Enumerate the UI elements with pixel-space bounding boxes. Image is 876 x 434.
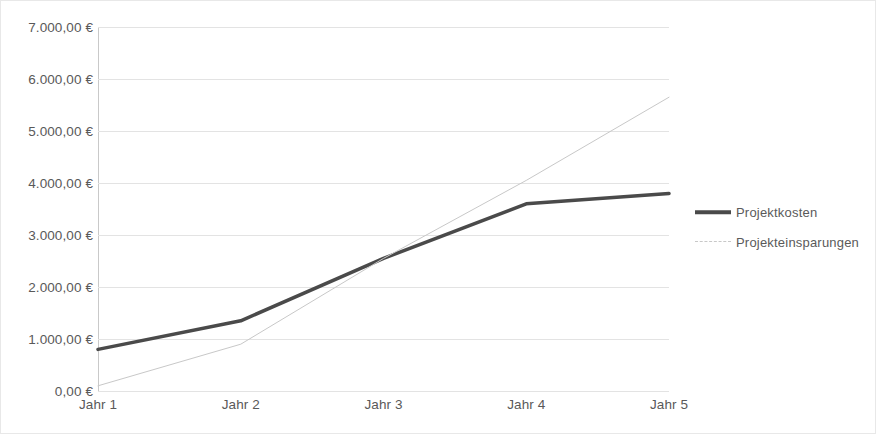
legend-item-projektkosten: Projektkosten	[695, 197, 871, 227]
y-axis-tick-label: 2.000,00 €	[5, 280, 93, 295]
chart-legend: Projektkosten Projekteinsparungen	[695, 197, 871, 257]
y-axis-labels: 0,00 €1.000,00 €2.000,00 €3.000,00 €4.00…	[1, 27, 93, 391]
series-line	[98, 193, 669, 349]
thick-line-marker-icon	[695, 206, 731, 218]
y-axis-tick-label: 5.000,00 €	[5, 124, 93, 139]
x-axis-tick-label: Jahr 2	[222, 397, 260, 412]
y-axis-tick-label: 3.000,00 €	[5, 228, 93, 243]
y-axis-tick-label: 1.000,00 €	[5, 332, 93, 347]
line-chart: 0,00 €1.000,00 €2.000,00 €3.000,00 €4.00…	[0, 0, 876, 434]
x-axis-tick-label: Jahr 1	[79, 397, 117, 412]
x-axis-tick-label: Jahr 3	[364, 397, 402, 412]
x-axis-labels: Jahr 1Jahr 2Jahr 3Jahr 4Jahr 5	[98, 397, 669, 421]
legend-item-projekteinsparungen: Projekteinsparungen	[695, 227, 871, 257]
y-axis-tick-label: 4.000,00 €	[5, 176, 93, 191]
legend-item-label: Projekteinsparungen	[736, 235, 859, 250]
legend-item-label: Projektkosten	[736, 205, 817, 220]
y-axis-tick-label: 7.000,00 €	[5, 20, 93, 35]
series-line	[98, 97, 669, 386]
series-layer	[98, 27, 669, 391]
x-axis-tick-label: Jahr 4	[507, 397, 545, 412]
x-axis-tick-label: Jahr 5	[650, 397, 688, 412]
plot-area	[98, 27, 669, 391]
y-axis-tick-label: 6.000,00 €	[5, 72, 93, 87]
grid-line	[98, 391, 669, 392]
thin-line-marker-icon	[695, 236, 731, 248]
